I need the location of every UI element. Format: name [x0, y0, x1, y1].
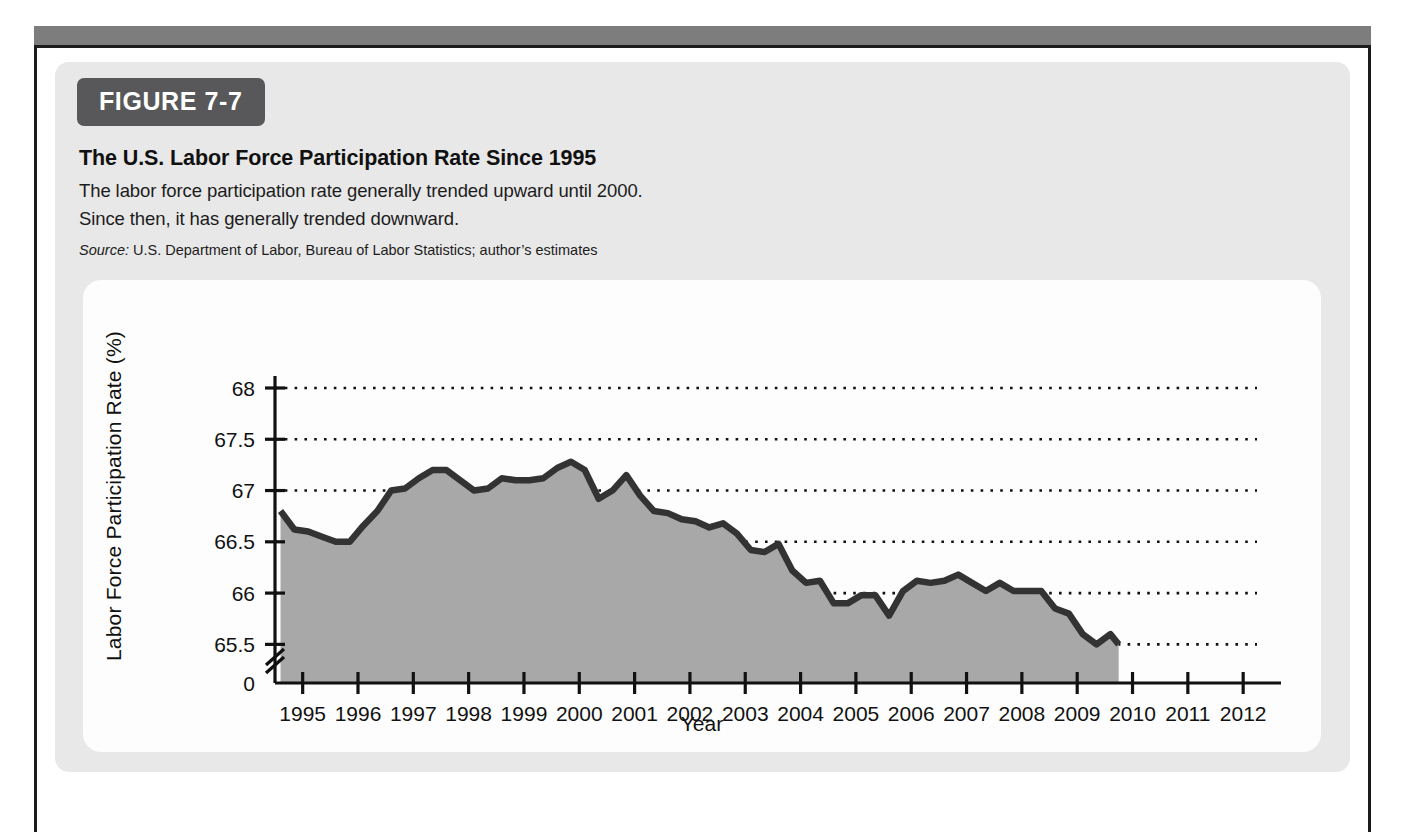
- figure-subtitle-line-1: The labor force participation rate gener…: [79, 180, 643, 202]
- figure-title: The U.S. Labor Force Participation Rate …: [79, 146, 596, 171]
- source-text: U.S. Department of Labor, Bureau of Labo…: [133, 242, 598, 258]
- page-root: FIGURE 7-7 The U.S. Labor Force Particip…: [0, 0, 1405, 832]
- y-tick-label: 65.5: [214, 633, 255, 656]
- y-tick-label: 66.5: [214, 530, 255, 553]
- page-top-rule: [34, 26, 1371, 48]
- y-tick-label: 66: [232, 582, 255, 605]
- y-tick-label: 67.5: [214, 428, 255, 451]
- y-tick-label: 68: [232, 377, 255, 400]
- y-axis-title: Labor Force Participation Rate (%): [102, 216, 126, 776]
- chart-plot-panel: 065.56666.56767.568199519961997199819992…: [83, 280, 1321, 752]
- x-axis-title: Year: [83, 712, 1321, 736]
- series-area-fill: [281, 462, 1119, 683]
- figure-subtitle-line-2: Since then, it has generally trended dow…: [79, 208, 459, 230]
- figure-source: Source: U.S. Department of Labor, Bureau…: [79, 242, 598, 258]
- figure-number-badge: FIGURE 7-7: [77, 78, 265, 126]
- y-tick-label: 67: [232, 479, 255, 502]
- figure-card: FIGURE 7-7 The U.S. Labor Force Particip…: [55, 62, 1350, 772]
- line-area-chart: 065.56666.56767.568199519961997199819992…: [83, 280, 1321, 752]
- y-tick-label: 0: [243, 672, 255, 695]
